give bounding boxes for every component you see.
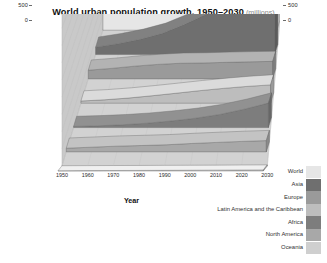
y-tick-right: 0 [288, 17, 291, 23]
legend-item[interactable]: Asia [203, 179, 321, 192]
chart-legend: WorldAsiaEuropeLatin America and the Car… [203, 166, 321, 254]
x-tick: 1990 [156, 172, 174, 178]
legend-item-label: Africa [288, 220, 306, 226]
legend-item-swatch [306, 191, 321, 203]
legend-item[interactable]: Oceania [203, 242, 321, 255]
legend-item[interactable]: Latin America and the Caribbean [203, 204, 321, 217]
x-tick: 1960 [79, 172, 97, 178]
legend-item-swatch [306, 204, 321, 216]
legend-item[interactable]: North America [203, 229, 321, 242]
plot-area [32, 14, 280, 182]
legend-item-label: North America [266, 232, 306, 238]
x-tick: 2000 [181, 172, 199, 178]
chart-page: World urban population growth, 1950–2030… [0, 0, 327, 263]
y-tick-right: 500 [288, 2, 298, 8]
legend-item-swatch [306, 166, 321, 178]
x-tick: 1950 [53, 172, 71, 178]
legend-item-label: World [288, 169, 306, 175]
legend-item-swatch [306, 229, 321, 241]
legend-item-swatch [306, 242, 321, 254]
legend-item[interactable]: Europe [203, 191, 321, 204]
legend-item-label: Latin America and the Caribbean [217, 207, 306, 213]
chart-canvas [32, 14, 280, 182]
y-tick-left: 500 [0, 2, 28, 8]
legend-item[interactable]: World [203, 166, 321, 179]
legend-item-swatch [306, 216, 321, 228]
x-tick: 1980 [130, 172, 148, 178]
legend-item[interactable]: Africa [203, 216, 321, 229]
y-tick-mark-left [29, 5, 32, 6]
y-tick-mark-right [283, 5, 286, 6]
legend-item-label: Asia [292, 182, 306, 188]
x-tick: 1970 [104, 172, 122, 178]
legend-item-label: Oceania [281, 245, 306, 251]
y-tick-left: 0 [0, 17, 28, 23]
legend-item-label: Europe [284, 195, 306, 201]
y-tick-mark-left [29, 20, 32, 21]
legend-item-swatch [306, 179, 321, 191]
y-tick-mark-right [283, 20, 286, 21]
